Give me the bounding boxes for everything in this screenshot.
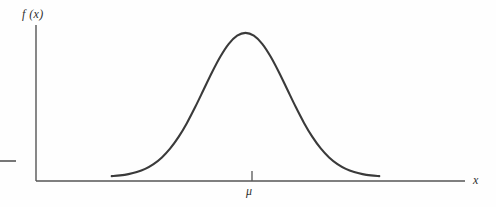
plot-area (0, 0, 496, 207)
mean-label: μ (246, 185, 252, 197)
normal-distribution-figure: f (x) x μ (0, 0, 496, 207)
y-axis-label: f (x) (22, 8, 44, 20)
x-axis-label: x (473, 174, 478, 186)
density-curve (112, 33, 380, 176)
